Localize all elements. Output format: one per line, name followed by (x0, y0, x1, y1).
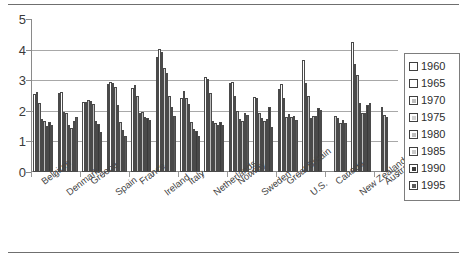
bar-group-greece (82, 19, 102, 172)
x-axis-label-ireland: Ireland (162, 171, 192, 198)
bar-group-great-britain (278, 19, 298, 172)
bar-group-bars (376, 19, 396, 172)
bar-1995[interactable] (369, 103, 372, 172)
bar-group-italy (180, 19, 200, 172)
legend-label: 1970 (421, 95, 445, 106)
legend-swatch-icon (409, 181, 418, 190)
bar-group-bars (180, 19, 200, 172)
legend-label: 1960 (421, 61, 445, 72)
bar-group-spain (107, 19, 127, 172)
legend-label: 1965 (421, 78, 445, 89)
bar-group-bars (351, 19, 371, 172)
bar-group-ireland (156, 19, 176, 172)
bar-group-netherlands (204, 19, 224, 172)
chart-legend: 19601965197019751980198519901995 (404, 53, 460, 201)
bar-group-new-zealand (351, 19, 371, 172)
legend-label: 1995 (421, 180, 445, 191)
legend-label: 1975 (421, 112, 445, 123)
y-tick-label-2: 2 (4, 104, 26, 117)
bar-group-australia (376, 19, 396, 172)
legend-item-1960[interactable]: 1960 (409, 58, 456, 75)
bar-group-sweden (253, 19, 273, 172)
bar-group-bars (131, 19, 151, 172)
legend-swatch-icon (409, 79, 418, 88)
bar-1995[interactable] (222, 125, 225, 172)
legend-swatch-icon (409, 164, 418, 173)
x-axis-labels: BelgiumDenmarkGreeceSpainFranceIrelandIt… (31, 176, 398, 252)
legend-label: 1980 (421, 129, 445, 140)
legend-swatch-icon (409, 130, 418, 139)
bar-1995[interactable] (124, 136, 127, 172)
legend-swatch-icon (409, 96, 418, 105)
legend-swatch-icon (409, 113, 418, 122)
bar-group-bars (58, 19, 78, 172)
legend-swatch-icon (409, 147, 418, 156)
y-axis-line (31, 19, 32, 172)
bar-1995[interactable] (173, 116, 176, 172)
plot-area: 012345 (31, 19, 398, 172)
bar-group-bars (156, 19, 176, 172)
bar-group-bars (107, 19, 127, 172)
bar-group-bars (278, 19, 298, 172)
legend-label: 1985 (421, 146, 445, 157)
bar-group-denmark (58, 19, 78, 172)
y-tick-label-5: 5 (4, 13, 26, 26)
legend-item-1970[interactable]: 1970 (409, 92, 456, 109)
legend-label: 1990 (421, 163, 445, 174)
legend-item-1980[interactable]: 1980 (409, 126, 456, 143)
plot-inner: 012345 (31, 19, 398, 172)
bar-group-bars (82, 19, 102, 172)
legend-item-1965[interactable]: 1965 (409, 75, 456, 92)
bar-1995[interactable] (295, 120, 298, 172)
bar-group-france (131, 19, 151, 172)
bar-1995[interactable] (149, 120, 152, 172)
bar-1995[interactable] (344, 123, 347, 172)
top-rule (8, 4, 459, 5)
x-axis-label-spain: Spain (113, 174, 139, 198)
bar-group-bars (33, 19, 53, 172)
bottom-rule (8, 252, 459, 253)
y-tick-label-3: 3 (4, 74, 26, 87)
bar-1995[interactable] (271, 127, 274, 172)
bar-group-bars (229, 19, 249, 172)
y-tick-label-4: 4 (4, 43, 26, 56)
legend-swatch-icon (409, 62, 418, 71)
bar-group-norway (229, 19, 249, 172)
legend-item-1990[interactable]: 1990 (409, 160, 456, 177)
y-tick-label-0: 0 (4, 166, 26, 179)
bar-group-belgium (33, 19, 53, 172)
y-tick-label-1: 1 (4, 135, 26, 148)
bar-1995[interactable] (51, 125, 54, 172)
chart-figure: 012345 BelgiumDenmarkGreeceSpainFranceIr… (0, 0, 467, 260)
bar-1995[interactable] (75, 117, 78, 172)
bar-group-bars (204, 19, 224, 172)
legend-item-1985[interactable]: 1985 (409, 143, 456, 160)
x-axis-label-u-s: U.S. (308, 178, 329, 198)
legend-item-1995[interactable]: 1995 (409, 177, 456, 194)
legend-item-1975[interactable]: 1975 (409, 109, 456, 126)
bar-group-bars (253, 19, 273, 172)
